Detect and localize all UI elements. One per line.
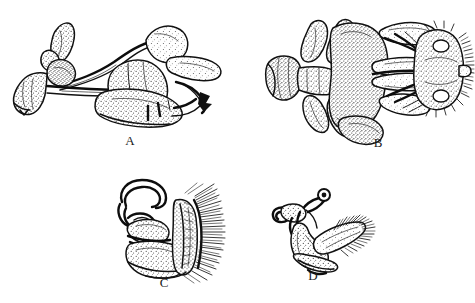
panel-b-illustration: B — [255, 0, 475, 150]
panel-b-label: B — [366, 136, 390, 149]
panel-d-label: D — [301, 269, 325, 282]
panel-c-illustration: C — [100, 170, 240, 290]
panel-a-illustration: A — [0, 0, 250, 145]
panel-a-label: A — [118, 134, 142, 147]
figure-plate: A — [0, 0, 475, 303]
panel-d-illustration: D — [262, 182, 382, 292]
panel-c-label: C — [152, 276, 176, 289]
